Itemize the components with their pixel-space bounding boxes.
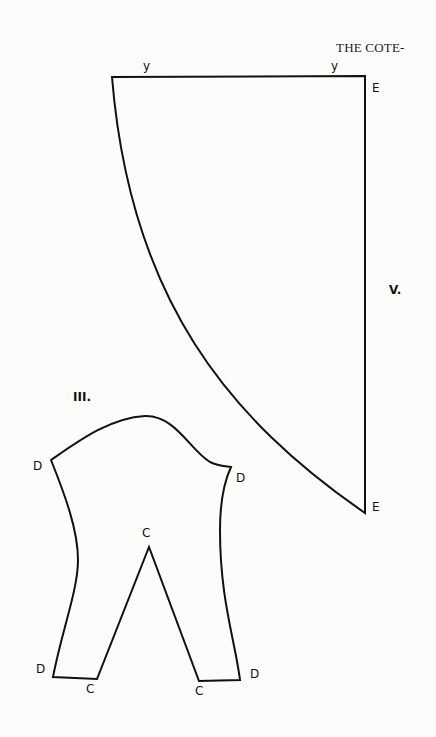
pattern-piece-iii <box>51 416 240 681</box>
label-e-top: E <box>372 81 380 95</box>
label-y-left: y <box>143 59 150 73</box>
pattern-diagram <box>0 0 436 737</box>
label-d-bottom-right: D <box>250 667 259 681</box>
label-c-bottom-left: C <box>86 682 94 696</box>
figure-label-v: V. <box>389 283 401 297</box>
pattern-piece-v <box>112 76 365 513</box>
label-y-right: y <box>331 59 338 73</box>
label-c-apex: C <box>142 526 150 540</box>
label-c-bottom-right: C <box>195 684 203 698</box>
label-d-bottom-left: D <box>36 662 45 676</box>
figure-label-iii: III. <box>73 390 91 404</box>
label-d-top-right: D <box>236 471 245 485</box>
label-e-bottom: E <box>372 500 380 514</box>
label-d-top-left: D <box>33 459 42 473</box>
